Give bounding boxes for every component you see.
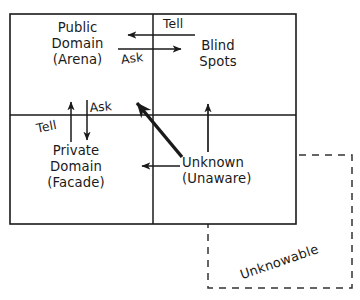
quadrant-label-blind-spots: Blind Spots — [175, 38, 261, 70]
flow-label-tell-top: Tell — [163, 16, 183, 31]
private-domain-line-2: Domain — [22, 159, 130, 175]
private-domain-line-3: (Facade) — [22, 175, 130, 191]
unknown-line-1: Unknown — [182, 155, 286, 171]
quadrant-label-private-domain: Private Domain (Facade) — [22, 143, 130, 191]
johari-window-diagram: Public Domain (Arena) Blind Spots Privat… — [0, 0, 360, 300]
private-domain-line-1: Private — [22, 143, 130, 159]
quadrant-label-unknown: Unknown (Unaware) — [182, 155, 286, 187]
quadrant-label-public-domain: Public Domain (Arena) — [25, 20, 130, 68]
public-domain-line-1: Public — [25, 20, 130, 36]
public-domain-line-3: (Arena) — [25, 52, 130, 68]
unknown-line-2: (Unaware) — [182, 171, 286, 187]
flow-label-ask-left: Ask — [89, 98, 113, 115]
flow-label-ask-mid: Ask — [120, 49, 144, 67]
public-domain-line-2: Domain — [25, 36, 130, 52]
blind-spots-line-1: Blind — [175, 38, 261, 54]
blind-spots-line-2: Spots — [175, 54, 261, 70]
